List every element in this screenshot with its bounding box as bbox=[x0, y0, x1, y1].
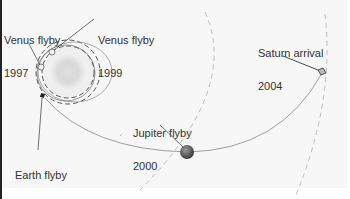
leader-earth-1999 bbox=[38, 98, 42, 150]
saturn-2004-year: 2004 bbox=[258, 81, 323, 92]
venus-flyby-1999-label: Venus flyby 1999 bbox=[98, 13, 154, 90]
venus-1997-year: 1997 bbox=[4, 68, 60, 79]
venus-1997-title: Venus flyby bbox=[4, 35, 60, 46]
venus-flyby-1997-label: Venus flyby 1997 bbox=[4, 13, 60, 90]
saturn-2004-title: Saturn arrival bbox=[258, 48, 323, 59]
earth-flyby-1999-label: Earth flyby 1999 bbox=[15, 148, 67, 199]
earth-1999-title: Earth flyby bbox=[15, 170, 67, 181]
jupiter-2000-title: Jupiter flyby bbox=[133, 128, 192, 139]
jupiter-2000-year: 2000 bbox=[133, 161, 192, 172]
venus-1999-title: Venus flyby bbox=[98, 35, 154, 46]
jupiter-flyby-2000-label: Jupiter flyby 2000 bbox=[133, 106, 192, 183]
saturn-arrival-2004-label: Saturn arrival 2004 bbox=[258, 26, 323, 103]
trajectory-tick bbox=[120, 134, 122, 136]
venus-1999-year: 1999 bbox=[98, 68, 154, 79]
